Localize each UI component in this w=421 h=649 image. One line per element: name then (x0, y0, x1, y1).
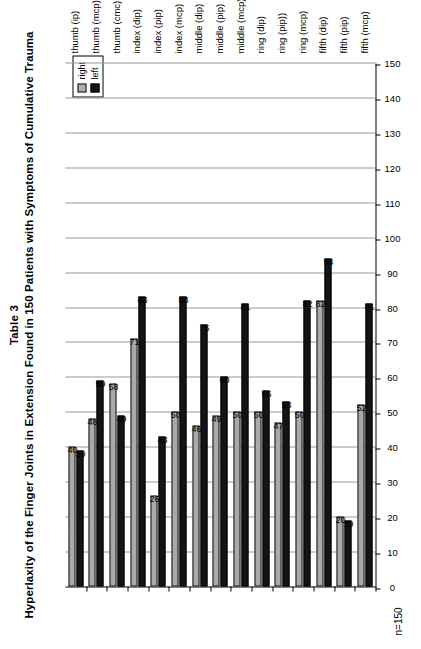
bar-right (130, 338, 137, 586)
category-axis-label: ring (pip)) (276, 12, 286, 53)
plot-area: 0102030405060708090100110120130140150 40… (65, 63, 375, 587)
bar-value-label: 50 (170, 410, 180, 419)
gridline (65, 237, 375, 238)
axis-tick-label: 10 (379, 547, 405, 557)
bar-right (316, 300, 323, 586)
bar-left (344, 520, 351, 586)
gridline (65, 167, 375, 168)
bar-value-label: 58 (108, 382, 118, 391)
bar-left (117, 415, 124, 586)
axis-tick-label: 90 (379, 268, 405, 278)
axis-tick-label: 40 (379, 442, 405, 452)
bar-right (357, 404, 364, 586)
category-axis-label: fifth (pip) (338, 16, 348, 53)
axis-tick-label: 100 (379, 233, 405, 243)
category-axis-label: index (pip) (152, 9, 162, 53)
category-axis-label: middle (pip) (214, 3, 224, 53)
category-axis-label: thumb (ip) (69, 10, 79, 53)
category-tick (86, 586, 87, 591)
bar-value-label: 39 (75, 449, 85, 458)
category-tick (334, 586, 335, 591)
axis-tick-label: 110 (379, 198, 405, 208)
category-tick (230, 586, 231, 591)
bar-value-label: 59 (95, 379, 105, 388)
bar-right (274, 422, 281, 586)
category-axis-label: thumb (cmc) (111, 0, 121, 53)
bar-right (212, 415, 219, 586)
bar-right (68, 446, 75, 586)
axis-tick-label: 60 (379, 372, 405, 382)
category-tick (168, 586, 169, 591)
bar-value-label: 71 (129, 337, 139, 346)
sample-size-note: n=150 (392, 607, 403, 635)
bar-left (324, 258, 331, 586)
category-axis-label: fifth (dip) (317, 16, 327, 53)
bar-left (241, 303, 248, 586)
bar-value-label: 26 (149, 494, 159, 503)
bar-value-label: 60 (219, 375, 229, 384)
gridline (65, 62, 375, 63)
bar-value-label: 81 (240, 302, 250, 311)
bar-value-label: 94 (323, 257, 333, 266)
gridline (65, 202, 375, 203)
category-tick (210, 586, 211, 591)
bar-value-label: 47 (273, 421, 283, 430)
category-axis-label: ring (dip) (255, 16, 265, 54)
table-number: Table 3 (6, 0, 21, 649)
bar-value-label: 83 (178, 295, 188, 304)
bar-right (171, 411, 178, 586)
bar-left (200, 324, 207, 586)
axis-tick-label: 80 (379, 303, 405, 313)
bar-left (220, 376, 227, 586)
axis-tick-label: 140 (379, 93, 405, 103)
axis-tick-label: 50 (379, 407, 405, 417)
category-axis-label: ring (mcp) (297, 10, 307, 53)
bar-left (303, 300, 310, 586)
bar-right (150, 495, 157, 586)
bar-right (336, 516, 343, 586)
bar-value-label: 48 (87, 417, 97, 426)
category-tick (292, 586, 293, 591)
bar-value-label: 43 (157, 435, 167, 444)
bar-value-label: 19 (343, 519, 353, 528)
bar-value-label: 82 (302, 299, 312, 308)
gridline (65, 132, 375, 133)
category-axis-label: fifth (mcp) (359, 11, 369, 53)
axis-tick-label: 30 (379, 477, 405, 487)
figure-title-block: Table 3 Hyperlaxity of the Finger Joints… (6, 0, 36, 649)
bar-left (76, 450, 83, 586)
bar-value-label: 52 (356, 403, 366, 412)
axis-tick-label: 120 (379, 163, 405, 173)
bar-right (192, 425, 199, 586)
category-tick (251, 586, 252, 591)
bar-value-label: 50 (232, 410, 242, 419)
bar-left (179, 296, 186, 586)
bar-left (282, 401, 289, 586)
category-axis-label: thumb (mcp) (90, 0, 100, 53)
bar-left (365, 303, 372, 586)
category-tick (148, 586, 149, 591)
bar-value-label: 46 (191, 424, 201, 433)
bar-value-label: 53 (281, 400, 291, 409)
bar-value-label: 83 (137, 295, 147, 304)
category-axis-label: index (mcp) (173, 3, 183, 53)
category-tick (313, 586, 314, 591)
bar-right (88, 418, 95, 586)
category-tick (127, 586, 128, 591)
bar-left (158, 436, 165, 586)
figure-stage: Table 3 Hyperlaxity of the Finger Joints… (0, 0, 421, 649)
bar-value-label: 75 (199, 323, 209, 332)
bar-left (262, 390, 269, 586)
bar-right (295, 411, 302, 586)
category-axis-label: middle (mcp) (235, 0, 245, 53)
category-tick (375, 586, 376, 591)
category-tick (189, 586, 190, 591)
axis-tick-label: 0 (379, 582, 405, 592)
bar-left (138, 296, 145, 586)
bar-right (233, 411, 240, 586)
axis-tick-label: 70 (379, 337, 405, 347)
bar-value-label: 49 (211, 414, 221, 423)
axis-tick-label: 130 (379, 128, 405, 138)
category-tick (272, 586, 273, 591)
bar-value-label: 56 (261, 389, 271, 398)
